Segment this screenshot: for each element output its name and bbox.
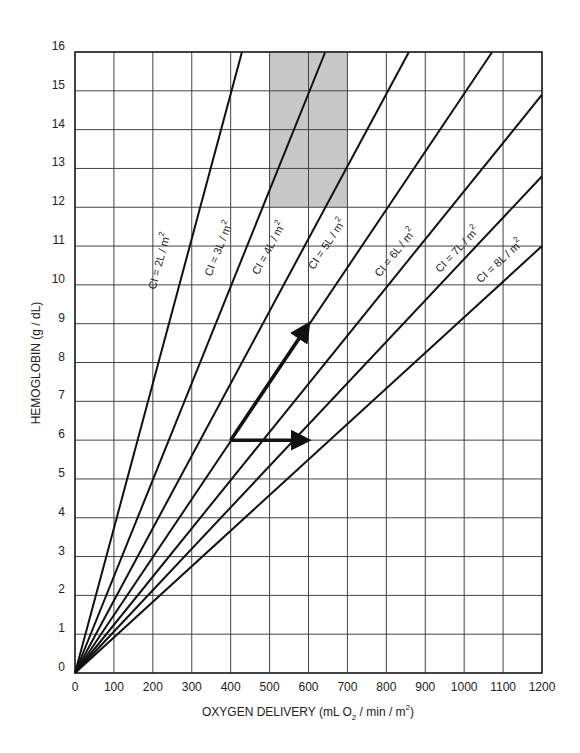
x-tick-label: 1000 — [451, 680, 478, 694]
x-tick-label: 1200 — [529, 680, 556, 694]
y-tick-label: 2 — [58, 582, 65, 596]
x-tick-label: 400 — [221, 680, 241, 694]
ci-label: CI = 5L / m2 — [303, 214, 348, 271]
x-tick-label: 800 — [376, 680, 396, 694]
ci-line-labels: CI = 2L / m2CI = 3L / m2CI = 4L / m2CI =… — [143, 214, 525, 290]
ci-label: CI = 3L / m2 — [199, 218, 235, 278]
x-tick-label: 900 — [415, 680, 435, 694]
x-tick-label: 1100 — [490, 680, 516, 694]
y-tick-label: 12 — [52, 194, 66, 208]
x-tick-label: 0 — [72, 680, 79, 694]
y-axis-title: HEMOGLOBIN (g / dL) — [29, 302, 43, 425]
x-tick-label: 700 — [337, 680, 357, 694]
ci-label: CI = 6L / m2 — [370, 224, 419, 279]
grid-lines — [75, 52, 542, 673]
y-tick-label: 10 — [52, 272, 66, 286]
y-tick-label: 9 — [58, 311, 65, 325]
y-tick-label: 11 — [53, 233, 66, 247]
y-tick-label: 4 — [58, 505, 65, 519]
oxygen-delivery-chart: CI = 2L / m2CI = 3L / m2CI = 4L / m2CI =… — [0, 0, 580, 753]
x-tick-label: 200 — [143, 680, 163, 694]
y-tick-label: 6 — [58, 427, 65, 441]
ci-label: CI = 2L / m2 — [143, 230, 173, 291]
y-tick-label: 0 — [58, 660, 65, 674]
y-tick-label: 7 — [58, 388, 65, 402]
x-tick-label: 100 — [104, 680, 124, 694]
x-axis-ticks: 0100200300400500600700800900100011001200 — [72, 680, 556, 694]
x-axis-title: OXYGEN DELIVERY (mL O2 / min / m2) — [202, 703, 414, 722]
y-tick-label: 15 — [52, 78, 66, 92]
y-tick-label: 5 — [58, 466, 65, 480]
y-tick-label: 13 — [52, 155, 66, 169]
y-tick-label: 1 — [58, 621, 65, 635]
x-tick-label: 600 — [298, 680, 318, 694]
y-tick-label: 14 — [52, 117, 66, 131]
y-tick-label: 3 — [58, 544, 65, 558]
x-tick-label: 300 — [182, 680, 202, 694]
y-tick-label: 8 — [58, 350, 65, 364]
y-tick-label: 16 — [52, 39, 66, 53]
x-tick-label: 500 — [260, 680, 280, 694]
ci-label: CI = 4L / m2 — [247, 218, 288, 277]
y-axis-ticks: 012345678910111213141516 — [52, 39, 66, 674]
